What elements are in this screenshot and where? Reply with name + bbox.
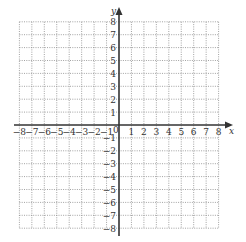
y-axis-arrow-icon [116,7,123,15]
y-tick-label: 3 [110,82,116,92]
y-tick-label: 6 [110,43,116,53]
x-tick-label: 5 [178,127,184,137]
x-tick-label: −2 [87,127,100,137]
y-tick-label: −2 [103,146,116,156]
y-tick-label: −8 [103,224,117,234]
y-tick-label: −5 [103,185,117,195]
x-tick-label: 7 [203,127,209,137]
y-tick-label: 1 [110,108,116,118]
coordinate-plane: x y 0 −8−7−6−5−4−3−2−112345678 −8−7−6−5−… [0,0,246,242]
y-tick-label: 8 [110,17,116,27]
x-tick-label: 8 [216,127,222,137]
y-tick-label: −3 [103,159,117,169]
y-tick-label: −4 [103,172,117,182]
y-tick-label: −1 [103,133,116,143]
y-tick-label: −7 [103,211,117,221]
y-tick-label: 5 [110,56,116,66]
y-axis-label: y [110,6,117,16]
x-tick-label: 1 [129,127,135,137]
x-tick-label: 6 [191,127,197,137]
x-tick-label: 4 [166,127,172,137]
x-axis-label: x [229,126,234,136]
x-tick-label: 3 [153,127,159,137]
y-tick-label: 4 [110,69,116,79]
x-tick-label: 2 [141,127,147,137]
axes: x y 0 [14,6,234,236]
y-tick-label: 7 [110,30,116,40]
y-tick-label: 2 [110,95,116,105]
y-tick-label: −6 [103,198,117,208]
